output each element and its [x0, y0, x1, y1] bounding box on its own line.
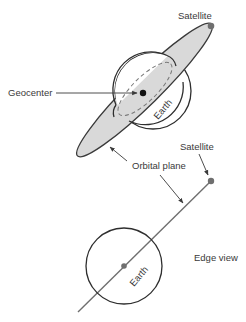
satellite-dot-top: [208, 23, 215, 30]
orbital-plane-diagram: Geocenter Earth Satellite Orbital plane …: [0, 0, 246, 322]
satellite-dot-edge: [208, 178, 214, 184]
orbital-plane-arrow-edge: [160, 175, 183, 203]
satellite-arrow-edge: [199, 154, 208, 175]
edge-view-caption: Edge view: [194, 252, 238, 263]
satellite-label-top: Satellite: [178, 10, 212, 21]
earth-center-dot-edge: [121, 263, 127, 269]
orbit-edge-line: [78, 181, 211, 312]
orbital-plane-arrow-top: [110, 147, 127, 161]
orbital-plane-label: Orbital plane: [132, 160, 186, 171]
geocenter-dot: [140, 90, 146, 96]
satellite-label-edge: Satellite: [180, 141, 214, 152]
geocenter-label: Geocenter: [8, 87, 52, 98]
earth-label-edge: Earth: [127, 264, 150, 288]
